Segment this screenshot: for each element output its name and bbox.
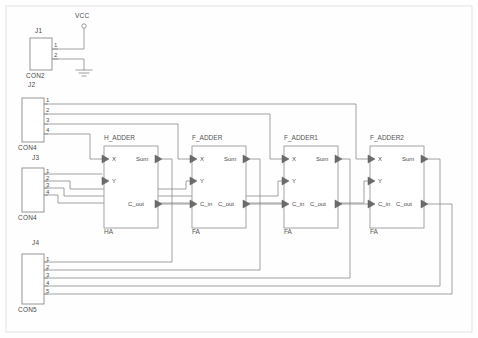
connector-body-j2[interactable] [22,98,44,142]
connector-type-j4: CON5 [18,307,37,314]
port-label-fa2-y: Y [378,178,382,184]
pin-number-j3-4: 4 [46,189,49,195]
schematic-canvas [0,0,478,338]
port-label-ha-cout: C_out [128,201,144,207]
port-label-fa1-cout: C_out [310,201,326,207]
connector-ref-j1: J1 [35,28,42,35]
port-label-fa1-x: X [292,156,296,162]
connector-type-j1: CON2 [26,73,45,80]
connector-type-j3: CON4 [18,215,37,222]
port-label-fa1-sum: Sum [316,156,328,162]
port-label-fa2-cin: C_in [378,201,390,207]
port-label-ha-sum: Sum [136,156,148,162]
connector-body-j3[interactable] [22,168,44,212]
connector-type-j2: CON4 [18,145,37,152]
wire-j1-gnd [52,59,84,70]
connector-ref-j3: J3 [32,155,39,162]
connector-ref-j4: J4 [32,240,39,247]
pin-number-j4-4: 4 [46,280,49,286]
ground-symbol [76,70,92,76]
pin-number-j4-5: 5 [46,288,49,294]
block-ref-f-adder2: F_ADDER2 [370,135,404,142]
port-label-fa2-x: X [378,156,382,162]
port-label-ha-x: X [112,156,116,162]
port-arrow-fa2-sum [421,155,428,163]
pin-number-j2-2: 2 [46,107,49,113]
block-ref-f-adder1: F_ADDER1 [284,135,318,142]
connector-body-j1[interactable] [30,38,52,70]
vcc-label: VCC [75,13,89,20]
port-arrow-fa1-cout [335,200,342,208]
port-arrow-ha-sum [155,155,162,163]
port-label-fa-cout: C_out [218,201,234,207]
vcc-node-icon [82,24,86,28]
pin-number-j4-3: 3 [46,272,49,278]
block-sublabel-f-adder: FA [192,229,200,236]
pin-number-j4-1: 1 [46,256,49,262]
wire-j2p4-hadder-x [44,134,102,159]
pin-number-j1-2: 2 [54,52,57,58]
schematic-sheet: VCC J1 1 2 CON2 J2 1 2 3 4 CON4 J3 1 2 3… [0,0,478,338]
pin-number-j2-3: 3 [46,117,49,123]
port-arrow-fa-sum [243,155,250,163]
pin-number-j3-2: 2 [46,175,49,181]
block-sublabel-f-adder1: FA [284,229,292,236]
port-label-fa-sum: Sum [224,156,236,162]
port-label-fa2-sum: Sum [402,156,414,162]
pin-number-j2-4: 4 [46,127,49,133]
port-label-fa1-cin: C_in [292,201,304,207]
connector-ref-j2: J2 [28,82,35,89]
pin-number-j3-3: 3 [46,182,49,188]
port-arrow-fa1-sum [335,155,342,163]
pin-number-j2-1: 1 [46,97,49,103]
port-label-fa-y: Y [200,178,204,184]
port-arrow-fa2-cout [421,200,428,208]
port-arrow-ha-cout [155,200,162,208]
block-sublabel-f-adder2: FA [370,229,378,236]
port-label-fa-x: X [200,156,204,162]
port-label-fa2-cout: C_out [396,201,412,207]
pin-number-j4-2: 2 [46,264,49,270]
port-label-fa1-y: Y [292,178,296,184]
connector-body-j4[interactable] [22,254,44,304]
block-ref-f-adder: F_ADDER [192,135,222,142]
port-label-fa-cin: C_in [200,201,212,207]
block-ref-h-adder: H_ADDER [104,135,135,142]
port-label-ha-y: Y [112,178,116,184]
block-bodies [104,146,424,228]
block-sublabel-h-adder: HA [104,229,113,236]
pin-number-j3-1: 1 [46,168,49,174]
port-arrow-fa-cout [243,200,250,208]
pin-number-j1-1: 1 [54,42,57,48]
